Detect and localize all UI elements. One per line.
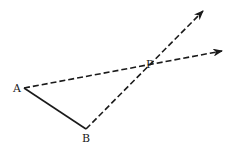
point-label-a: A [12,82,22,95]
geometry-diagram: A B P [0,0,234,154]
ray-b-through-p [86,11,203,129]
ray-a-through-p [24,51,222,88]
point-label-b: B [82,132,90,145]
diagram-svg: A B P [0,0,234,154]
segment-ab [24,88,86,129]
point-label-p: P [146,58,154,71]
